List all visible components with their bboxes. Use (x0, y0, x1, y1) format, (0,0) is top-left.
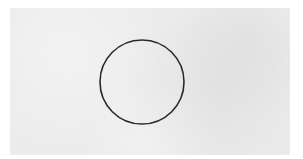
circle-outline (100, 40, 184, 124)
drawing-canvas (0, 0, 303, 159)
